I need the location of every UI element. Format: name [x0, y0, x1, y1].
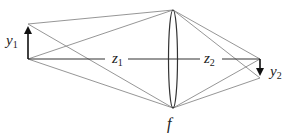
- ray-lens-bottom-to-image-tip: [173, 78, 260, 108]
- ray-lens-bottom-to-image-base: [173, 59, 260, 108]
- label-image-height: y2: [270, 64, 282, 81]
- label-focal-length: f: [167, 116, 171, 132]
- label-object-height: y1: [6, 33, 18, 50]
- lens-diagram: y1 z1 z2 y2 f: [0, 0, 289, 138]
- diagram-canvas: [0, 0, 289, 138]
- ray-lens-top-to-image-tip: [173, 10, 260, 78]
- ray-lens-top-to-image-base: [173, 10, 260, 59]
- label-object-distance: z1: [112, 51, 123, 68]
- label-image-distance: z2: [204, 51, 215, 68]
